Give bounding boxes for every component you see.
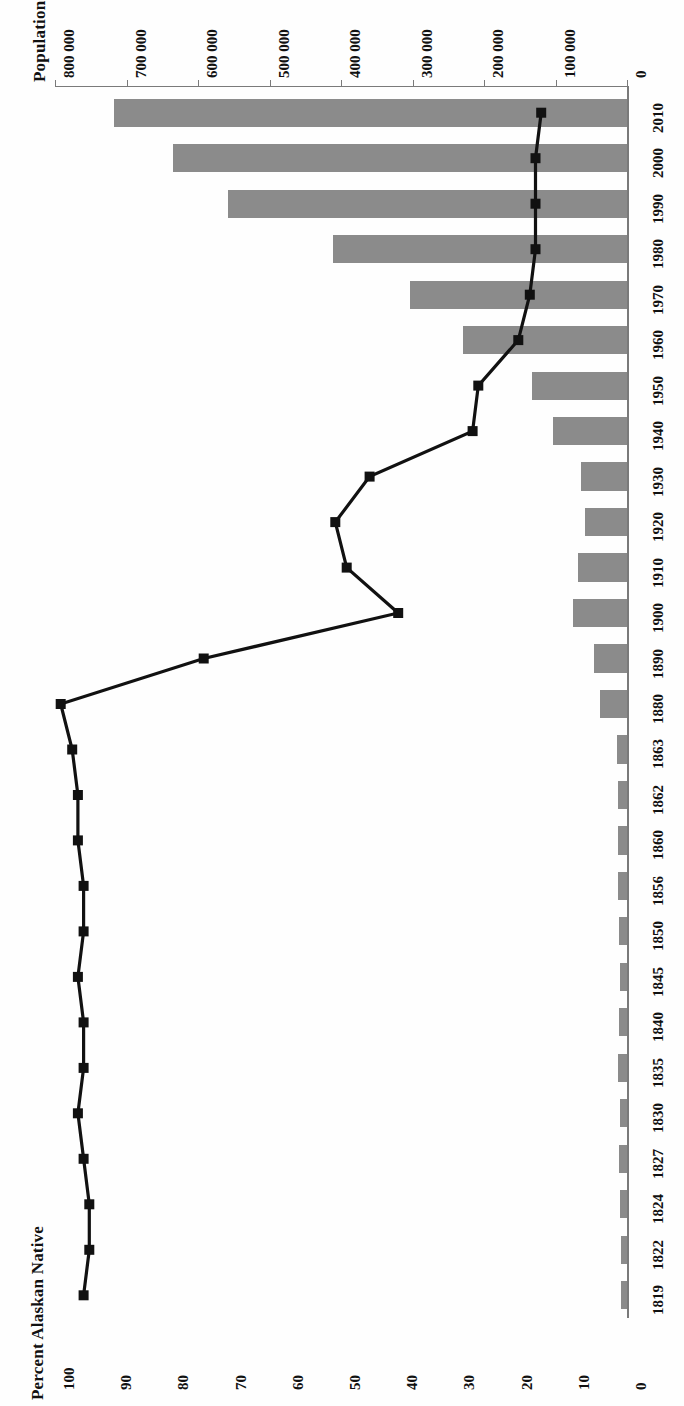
percent-native-line — [0, 0, 684, 1406]
data-point-marker — [393, 608, 403, 618]
data-point-marker — [79, 1154, 89, 1164]
data-point-marker — [473, 381, 483, 391]
data-point-marker — [79, 926, 89, 936]
percent-native-polyline — [61, 113, 542, 1296]
data-point-marker — [84, 1245, 94, 1255]
data-point-marker — [365, 472, 375, 482]
data-point-marker — [531, 244, 541, 254]
data-point-marker — [73, 972, 83, 982]
data-point-marker — [84, 1199, 94, 1209]
data-point-marker — [199, 654, 209, 664]
data-point-marker — [56, 699, 66, 709]
data-point-marker — [67, 745, 77, 755]
percent-native-markers — [56, 108, 547, 1301]
data-point-marker — [79, 881, 89, 891]
data-point-marker — [525, 290, 535, 300]
data-point-marker — [531, 153, 541, 163]
data-point-marker — [79, 1290, 89, 1300]
data-point-marker — [73, 1108, 83, 1118]
data-point-marker — [531, 199, 541, 209]
data-point-marker — [79, 1017, 89, 1027]
data-point-marker — [79, 1063, 89, 1073]
data-point-marker — [73, 790, 83, 800]
data-point-marker — [513, 335, 523, 345]
data-point-marker — [330, 517, 340, 527]
data-point-marker — [468, 426, 478, 436]
data-point-marker — [342, 563, 352, 573]
data-point-marker — [536, 108, 546, 118]
data-point-marker — [73, 835, 83, 845]
chart-figure: Population Percent Alaskan Native 800 00… — [0, 0, 684, 1406]
